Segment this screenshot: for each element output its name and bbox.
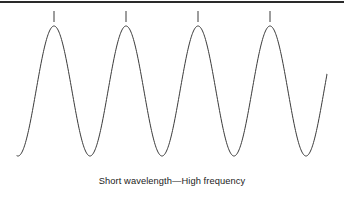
peak-tick-group (54, 11, 270, 22)
wavelength-figure: Short wavelength—High frequency (0, 0, 344, 199)
figure-caption: Short wavelength—High frequency (0, 175, 344, 187)
waveform-curve (17, 26, 327, 156)
waveform-chart (0, 0, 344, 170)
